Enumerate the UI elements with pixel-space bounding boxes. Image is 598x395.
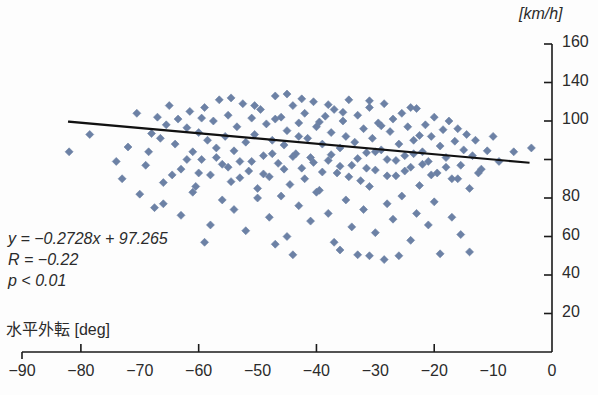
data-point [324,101,332,109]
data-point [383,200,391,208]
data-point [280,165,288,173]
x-axis-title: 水平外転 [deg] [6,316,110,340]
data-point [389,215,397,223]
data-point [162,121,170,129]
statistics-annotation: y = −0.2728x + 97.265 R = −0.22 p < 0.01 [8,228,168,291]
data-point [301,175,309,183]
data-point [424,221,432,229]
data-point [236,157,244,165]
data-point [398,109,406,117]
scatter-plot-figure: [km/h] 16014010080604020 −90−80−70−60−50… [0,0,598,395]
data-point [510,148,518,156]
data-point [386,128,394,136]
data-point [177,165,185,173]
data-point [439,126,447,134]
data-point [201,104,209,112]
data-point [436,250,444,258]
data-point [383,172,391,180]
y-axis-tick-label: 140 [562,72,589,90]
data-point [218,196,226,204]
data-point [118,175,126,183]
data-point [151,204,159,212]
data-point [489,132,497,140]
data-point [395,252,403,260]
data-point [248,114,256,122]
y-axis-ticks [544,44,552,314]
data-point [371,229,379,237]
data-point [451,137,459,145]
data-point [142,161,150,169]
data-point [392,156,400,164]
data-point [112,157,120,165]
data-point [262,120,270,128]
x-axis-tick-label: −90 [0,362,52,380]
data-point [174,115,182,123]
y-axis-tick-label: 60 [562,226,580,244]
data-point [430,198,438,206]
data-point [392,172,400,180]
data-point [436,142,444,150]
data-point [324,209,332,217]
data-point [156,134,164,142]
data-point [198,156,206,164]
data-point [145,148,153,156]
data-point [298,95,306,103]
data-point [483,147,491,155]
data-point [398,192,406,200]
data-point [236,174,244,182]
data-point [365,97,373,105]
data-point [212,144,220,152]
data-point [271,240,279,248]
data-point [171,140,179,148]
data-point [416,181,424,189]
data-point [268,150,276,158]
data-point [271,92,279,100]
data-point [86,130,94,138]
data-point [295,132,303,140]
data-point [410,136,418,144]
data-point [345,173,353,181]
data-point [342,132,350,140]
data-point [159,200,167,208]
data-point [254,184,262,192]
data-point [148,130,156,138]
data-point [209,117,217,125]
data-point [363,164,371,172]
data-point [360,206,368,214]
data-point [254,194,262,202]
data-point [457,161,465,169]
data-point [307,217,315,225]
x-axis-tick-label: −70 [110,362,170,380]
data-point [248,157,256,165]
data-point [454,175,462,183]
data-point [289,102,297,110]
data-point [416,131,424,139]
data-point [357,177,365,185]
data-point [183,124,191,132]
data-point [230,206,238,214]
data-point [277,192,285,200]
data-point [295,119,303,127]
data-point [227,178,235,186]
x-axis-tick-label: −40 [286,362,346,380]
data-point [65,148,73,156]
data-point [336,246,344,254]
data-point [368,134,376,142]
data-point [280,141,288,149]
data-point [136,190,144,198]
data-point [283,233,291,241]
data-point [227,94,235,102]
data-point [457,231,465,239]
data-point [304,134,312,142]
data-point [274,159,282,167]
data-point [342,196,350,204]
data-point [321,112,329,120]
data-point [189,148,197,156]
data-point [133,109,141,117]
data-point [445,117,453,125]
data-point [286,181,294,189]
data-point [354,111,362,119]
data-point [186,107,194,115]
y-axis-tick-label: 100 [562,110,589,128]
data-point [407,104,415,112]
